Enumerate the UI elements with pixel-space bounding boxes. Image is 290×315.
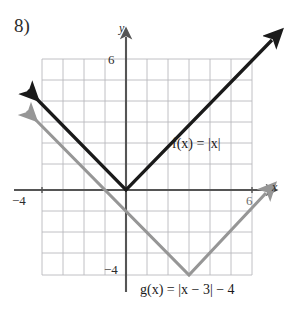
- x-axis-label: x: [272, 181, 277, 193]
- y-axis-label: y: [119, 22, 124, 34]
- f-function-label: f(x) = |x|: [172, 137, 221, 151]
- y-tick-label-negative-4: −4: [104, 263, 118, 276]
- problem-number: 8): [14, 16, 30, 35]
- f-curve: [28, 40, 272, 190]
- coordinate-plane: [0, 0, 290, 315]
- graph-figure: 8) y x 6 −4 −4 6 f(x) = |x| g(x) = |x − …: [0, 0, 290, 315]
- g-function-label: g(x) = |x − 3| − 4: [140, 283, 235, 297]
- y-tick-label-6: 6: [108, 53, 115, 66]
- x-tick-label-negative-4: −4: [12, 194, 26, 207]
- x-tick-label-6: 6: [246, 194, 253, 207]
